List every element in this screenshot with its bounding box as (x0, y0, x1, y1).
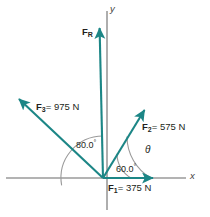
angle-label-theta: θ (145, 145, 150, 155)
x-axis-label: x (190, 171, 195, 181)
vector-label-F1-value: = 375 N (118, 182, 152, 193)
angle-label-80-value: 80.0 (76, 140, 94, 150)
vector-FR (100, 28, 103, 178)
vector-label-F1: F1= 375 N (108, 183, 151, 194)
vector-label-FR: FR (82, 27, 93, 38)
angle-label-80: 80.0° (76, 139, 96, 150)
angle-label-60-degree: ° (134, 163, 137, 170)
angle-label-60: 60.0° (116, 163, 136, 174)
y-axis-label: y (110, 4, 115, 14)
vector-label-F3-value: = 975 N (46, 101, 80, 112)
vector-label-F2: F2= 575 N (142, 122, 185, 133)
angle-label-80-degree: ° (94, 139, 97, 146)
force-vector-diagram: x y FR F3= 975 N F2= 575 N F1= 375 N 80.… (0, 0, 210, 217)
vector-label-FR-sub: R (88, 31, 93, 38)
vector-label-F2-value: = 575 N (152, 121, 186, 132)
angle-label-60-value: 60.0 (116, 164, 134, 174)
diagram-canvas (0, 0, 210, 217)
axis-group (6, 11, 186, 210)
vector-label-F3: F3= 975 N (36, 102, 79, 113)
